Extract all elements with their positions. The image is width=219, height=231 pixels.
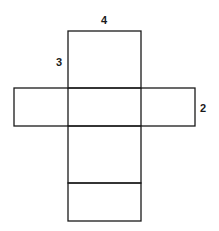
label-width: 3	[56, 57, 62, 68]
label-height: 2	[200, 103, 206, 114]
face-band	[14, 88, 195, 126]
prism-net	[0, 0, 219, 231]
face-top	[68, 31, 141, 88]
label-length: 4	[101, 15, 107, 26]
face-end	[68, 183, 141, 221]
face-bottom	[68, 126, 141, 183]
